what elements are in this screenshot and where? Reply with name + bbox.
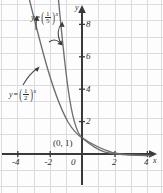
x-axis-name: x xyxy=(153,157,157,165)
function-label-one-fifth: y = ( 1 5 ) x xyxy=(31,11,58,24)
close-paren-icon: ) xyxy=(30,91,33,98)
x-tick-label-2: 2 xyxy=(112,158,117,167)
y-tick-label-4: 4 xyxy=(86,85,91,94)
close-paren-icon: ) xyxy=(52,14,55,21)
fraction-one-fifth: 1 5 xyxy=(45,11,51,24)
function-label-one-fifth-equals: = xyxy=(36,14,41,22)
open-paren-icon: ( xyxy=(19,91,22,98)
x-tick-label-4: 4 xyxy=(144,158,149,167)
fraction-one-half: 1 2 xyxy=(23,88,29,101)
x-tick-label-0: 0 xyxy=(71,158,76,167)
point-label-0-1: (0, 1) xyxy=(53,139,73,148)
fraction-denominator: 2 xyxy=(23,95,29,101)
open-paren-icon: ( xyxy=(41,14,44,21)
y-tick-label-2: 2 xyxy=(86,117,91,126)
function-label-one-half: y = ( 1 2 ) x xyxy=(9,88,36,101)
y-tick-label-8: 8 xyxy=(86,20,91,29)
y-axis-name: y xyxy=(75,4,79,12)
function-label-one-half-exponent: x xyxy=(34,88,37,94)
function-label-one-fifth-exponent: x xyxy=(56,11,59,17)
fraction-denominator: 5 xyxy=(45,18,51,24)
exponential-decay-figure: -4 -2 0 2 4 2 4 6 8 x y (0, 1) y = ( 1 5… xyxy=(0,0,163,193)
function-label-one-half-y: y xyxy=(9,91,13,99)
x-tick-label--4: -4 xyxy=(12,158,20,167)
y-tick-label-6: 6 xyxy=(86,52,91,61)
function-label-one-half-equals: = xyxy=(14,91,19,99)
point-marker-0-1 xyxy=(81,137,83,139)
function-label-one-fifth-y: y xyxy=(31,14,35,22)
x-tick-label--2: -2 xyxy=(45,158,53,167)
